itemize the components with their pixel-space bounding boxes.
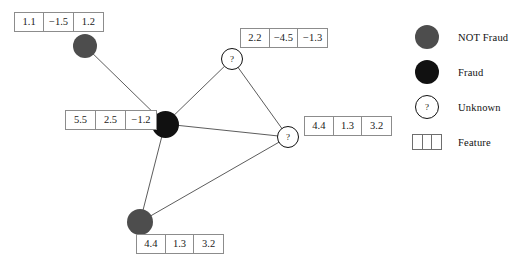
feature-cell: −1.2	[126, 111, 156, 129]
feature-cell: 1.2	[74, 13, 103, 31]
feature-box: 1.1−1.51.2	[14, 12, 104, 32]
legend-marker-unknown: ?	[412, 95, 442, 119]
feature-cell: 5.5	[66, 111, 96, 129]
legend-label: NOT Fraud	[458, 32, 508, 43]
legend-marker-feature	[412, 134, 442, 150]
feature-cell: 4.4	[137, 235, 166, 253]
feature-box: 2.2−4.5−1.3	[240, 28, 328, 48]
not-fraud-circle-icon	[415, 25, 439, 49]
graph-edge	[165, 124, 288, 137]
feature-box: 4.41.33.2	[136, 234, 224, 254]
feature-cell: 1.3	[334, 117, 363, 135]
legend-marker-fraud	[412, 60, 442, 84]
feature-cell: −1.3	[298, 29, 327, 47]
graph-node-unknown[interactable]: ?	[221, 48, 243, 70]
unknown-circle-icon: ?	[415, 95, 439, 119]
legend-item: ?Unknown	[412, 92, 501, 122]
diagram-canvas: ?? 1.1−1.51.25.52.5−1.22.2−4.5−1.34.41.3…	[0, 0, 531, 268]
graph-edge	[140, 137, 288, 222]
fraud-circle-icon	[415, 60, 439, 84]
legend-item: Feature	[412, 127, 491, 157]
feature-cell: 3.2	[362, 117, 391, 135]
graph-node-not-fraud[interactable]	[127, 209, 153, 235]
feature-cell	[423, 135, 433, 149]
legend-label: Unknown	[458, 102, 501, 113]
feature-box: 5.52.5−1.2	[65, 110, 157, 130]
legend-item: Fraud	[412, 57, 484, 87]
feature-cell: 1.1	[15, 13, 44, 31]
graph-node-not-fraud[interactable]	[73, 34, 97, 58]
legend-label: Feature	[458, 137, 491, 148]
feature-box: 4.41.33.2	[304, 116, 392, 136]
graph-edge	[232, 59, 288, 137]
feature-cell	[413, 135, 423, 149]
feature-cell: 1.3	[166, 235, 195, 253]
feature-cell: −4.5	[270, 29, 299, 47]
legend-marker-not-fraud	[412, 25, 442, 49]
feature-cell: 3.2	[194, 235, 223, 253]
feature-cell: −1.5	[44, 13, 73, 31]
feature-box-icon	[412, 134, 442, 150]
feature-cell: 2.2	[241, 29, 270, 47]
feature-cell: 4.4	[305, 117, 334, 135]
graph-edge	[140, 124, 165, 222]
feature-cell	[432, 135, 441, 149]
legend-label: Fraud	[458, 67, 484, 78]
legend-item: NOT Fraud	[412, 22, 508, 52]
graph-node-unknown[interactable]: ?	[277, 126, 299, 148]
question-mark-glyph: ?	[416, 96, 438, 118]
feature-cell: 2.5	[96, 111, 126, 129]
